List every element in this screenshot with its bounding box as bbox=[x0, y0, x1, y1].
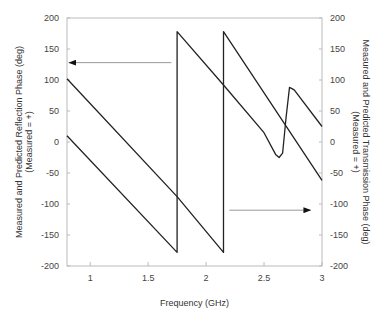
left-y-tick-label: 50 bbox=[49, 106, 59, 116]
phase-chart: 200200150150100100505000-50-50-100-100-1… bbox=[0, 0, 386, 321]
left-y-tick-label: 100 bbox=[44, 75, 59, 85]
right-y-tick-label: 200 bbox=[330, 13, 345, 23]
right-y-tick-label: 50 bbox=[330, 106, 340, 116]
x-tick-label: 1 bbox=[88, 273, 93, 283]
left-y-tick-label: -100 bbox=[41, 199, 59, 209]
right-y-tick-label: 0 bbox=[330, 137, 335, 147]
right-y-tick-label: -100 bbox=[330, 199, 348, 209]
right-y-tick-label: -150 bbox=[330, 230, 348, 240]
right-y-axis-label: Measured and Predicted Transmission Phas… bbox=[361, 39, 371, 244]
x-tick-label: 2.5 bbox=[258, 273, 271, 283]
left-y-axis-sublabel: (Measured = +) bbox=[24, 111, 34, 173]
left-y-tick-label: -50 bbox=[46, 168, 59, 178]
x-tick-label: 2 bbox=[204, 273, 209, 283]
right-y-tick-label: -50 bbox=[330, 168, 343, 178]
right-y-tick-label: 150 bbox=[330, 44, 345, 54]
x-tick-label: 3 bbox=[319, 273, 324, 283]
right-y-axis-sublabel: (Measured = +) bbox=[351, 111, 361, 173]
left-y-tick-label: 0 bbox=[54, 137, 59, 147]
x-tick-label: 1.5 bbox=[142, 273, 155, 283]
left-y-tick-label: 150 bbox=[44, 44, 59, 54]
left-y-tick-label: -150 bbox=[41, 230, 59, 240]
left-y-axis-label: Measured and Predicted Reflection Phase … bbox=[14, 46, 24, 238]
x-axis-label: Frequency (GHz) bbox=[160, 298, 229, 308]
series-line-1 bbox=[67, 32, 322, 253]
right-y-tick-label: 100 bbox=[330, 75, 345, 85]
right-y-tick-label: -200 bbox=[330, 261, 348, 271]
left-y-tick-label: 200 bbox=[44, 13, 59, 23]
left-y-tick-label: -200 bbox=[41, 261, 59, 271]
